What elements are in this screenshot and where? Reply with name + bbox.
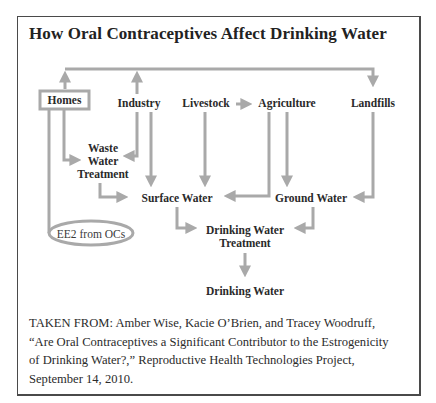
node-industry: Industry [118, 97, 161, 110]
node-dwt-line1: Drinking Water [206, 224, 284, 237]
arrow-industry-to-wwt [128, 112, 137, 156]
arrow-agriculture-to-surface [229, 112, 269, 196]
node-dwt-line2: Treatment [219, 237, 270, 249]
arrow-landfills-to-ground [358, 112, 373, 197]
arrow-ground-to-dwt [299, 207, 313, 228]
arrow-wwt-to-surface [100, 183, 123, 197]
arrow-surface-to-dwt [177, 207, 192, 228]
node-landfills: Landfills [351, 97, 396, 109]
caption-line: “Are Oral Contraceptives a Significant C… [29, 333, 415, 352]
node-drinking-water: Drinking Water [206, 285, 284, 298]
node-wwt-line1: Waste [88, 142, 118, 154]
source-caption: TAKEN FROM: Amber Wise, Kacie O’Brien, a… [29, 314, 415, 388]
node-wwt-line3: Treatment [77, 168, 128, 180]
node-wwt-line2: Water [88, 155, 119, 167]
caption-line: September 14, 2010. [29, 370, 415, 389]
node-homes: Homes [48, 94, 82, 106]
arrow-homes-to-wwt [64, 109, 76, 160]
caption-line: of Drinking Water?,” Reproductive Health… [29, 351, 415, 370]
node-ground-water: Ground Water [275, 192, 347, 204]
node-livestock: Livestock [182, 97, 230, 109]
node-ee2-from-ocs: EE2 from OCs [57, 228, 126, 240]
caption-line: TAKEN FROM: Amber Wise, Kacie O’Brien, a… [29, 314, 415, 333]
node-agriculture: Agriculture [258, 97, 315, 110]
top-loop-line [65, 69, 373, 82]
node-surface-water: Surface Water [141, 192, 212, 204]
